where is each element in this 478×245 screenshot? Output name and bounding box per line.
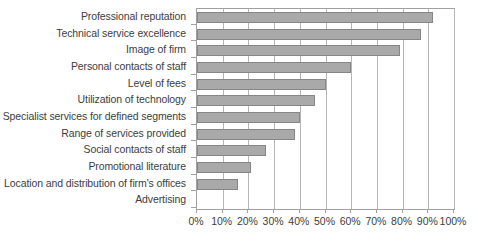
value-tick-label: 40% <box>288 215 309 227</box>
value-tick <box>196 209 197 213</box>
category-label: Image of firm <box>0 41 192 58</box>
bar-row <box>197 76 454 93</box>
value-tick <box>325 209 326 213</box>
bar-row <box>197 92 454 109</box>
bar <box>197 45 400 56</box>
value-tick-label: 80% <box>391 215 412 227</box>
category-label: Promotional literature <box>0 158 192 175</box>
bar-row <box>197 9 454 26</box>
bars-layer <box>197 9 454 209</box>
bar <box>197 12 433 23</box>
category-label: Specialist services for defined segments <box>0 108 192 125</box>
category-label: Technical service excellence <box>0 25 192 42</box>
value-tick-label: 100% <box>440 215 467 227</box>
value-tick <box>222 209 223 213</box>
value-tick <box>453 209 454 213</box>
value-tick <box>247 209 248 213</box>
gridline <box>454 9 455 209</box>
bar-row <box>197 42 454 59</box>
horizontal-bar-chart: Professional reputationTechnical service… <box>0 0 478 245</box>
value-tick-label: 0% <box>188 215 203 227</box>
bar <box>197 112 300 123</box>
bar-row <box>197 159 454 176</box>
value-tick <box>402 209 403 213</box>
bar <box>197 162 251 173</box>
bar-row <box>197 142 454 159</box>
plot-area <box>196 8 455 210</box>
category-label: Utilization of technology <box>0 91 192 108</box>
value-tick <box>299 209 300 213</box>
value-tick-label: 20% <box>237 215 258 227</box>
bar-row <box>197 59 454 76</box>
bar <box>197 79 326 90</box>
bar <box>197 95 315 106</box>
bar-row <box>197 26 454 43</box>
bar-row <box>197 109 454 126</box>
category-axis: Professional reputationTechnical service… <box>0 8 192 208</box>
category-label: Level of fees <box>0 75 192 92</box>
category-label: Location and distribution of firm's offi… <box>0 175 192 192</box>
value-tick-label: 90% <box>417 215 438 227</box>
value-tick <box>350 209 351 213</box>
bar-row <box>197 126 454 143</box>
value-tick <box>273 209 274 213</box>
bar-row <box>197 192 454 209</box>
bar <box>197 129 295 140</box>
bar <box>197 62 351 73</box>
category-label: Professional reputation <box>0 8 192 25</box>
value-tick-label: 70% <box>365 215 386 227</box>
category-label: Social contacts of staff <box>0 141 192 158</box>
bar <box>197 145 266 156</box>
category-label: Personal contacts of staff <box>0 58 192 75</box>
category-label: Range of services provided <box>0 125 192 142</box>
category-label: Advertising <box>0 191 192 208</box>
bar <box>197 29 421 40</box>
value-tick <box>376 209 377 213</box>
value-axis: 0%10%20%30%40%50%60%70%80%90%100% <box>196 209 453 239</box>
bar <box>197 179 238 190</box>
value-tick-label: 30% <box>263 215 284 227</box>
value-tick-label: 10% <box>211 215 232 227</box>
value-tick-label: 60% <box>340 215 361 227</box>
bar-row <box>197 176 454 193</box>
value-tick <box>427 209 428 213</box>
value-tick-label: 50% <box>314 215 335 227</box>
